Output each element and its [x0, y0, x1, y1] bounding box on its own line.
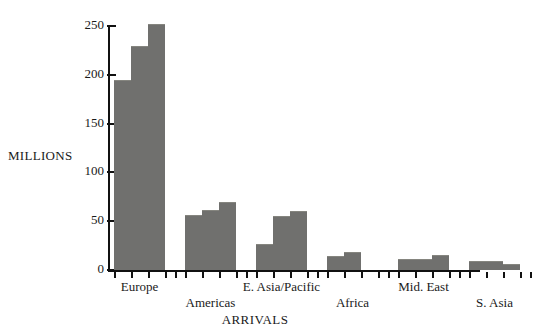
- bar: [219, 202, 236, 270]
- category-label-s-asia: S. Asia: [435, 295, 536, 311]
- x-axis-tick-mark: [246, 272, 248, 278]
- bar: [503, 264, 520, 270]
- y-axis-tick-label: 150: [85, 115, 105, 131]
- bar: [114, 80, 131, 270]
- x-axis-tick-mark: [131, 272, 133, 278]
- x-axis-tick-mark: [256, 272, 258, 278]
- x-axis-label-text: ARRIVALS: [222, 312, 289, 327]
- y-axis-tick-label: 250: [85, 17, 105, 33]
- x-axis-tick-mark: [185, 272, 187, 278]
- category-label-africa: Africa: [293, 295, 413, 311]
- y-axis-tick-label: 100: [85, 163, 105, 179]
- x-axis-tick-mark: [415, 272, 417, 278]
- category-label-mid-east: Mid. East: [364, 279, 484, 295]
- x-axis-tick-mark: [236, 272, 238, 278]
- bar: [185, 215, 202, 270]
- category-label-americas: Americas: [151, 295, 271, 311]
- x-axis-label: ARRIVALS: [0, 312, 490, 328]
- bar: [344, 252, 361, 270]
- x-axis-tick-mark: [449, 272, 451, 278]
- x-axis-tick-mark: [307, 272, 309, 278]
- y-axis-label: MILLIONS: [8, 148, 73, 164]
- bar: [469, 261, 486, 270]
- bar: [148, 24, 165, 270]
- bar: [256, 244, 273, 270]
- x-axis-tick-mark: [520, 272, 522, 278]
- bar: [415, 259, 432, 270]
- y-axis-tick-label: 200: [85, 66, 105, 82]
- category-label-e-asia-pacific: E. Asia/Pacific: [222, 279, 342, 295]
- x-axis-line: [108, 270, 480, 272]
- x-axis-tick-mark: [148, 272, 150, 278]
- x-axis-tick-mark: [273, 272, 275, 278]
- x-axis-tick-mark: [530, 272, 532, 278]
- bar: [432, 255, 449, 270]
- bar: [131, 46, 148, 270]
- x-axis-tick-mark: [361, 272, 363, 278]
- y-axis-tick-label: 50: [91, 212, 104, 228]
- x-axis-tick-mark: [290, 272, 292, 278]
- bar: [202, 210, 219, 270]
- bar: [273, 216, 290, 270]
- x-axis-tick-mark: [486, 272, 488, 278]
- x-axis-tick-mark: [317, 272, 319, 278]
- bar: [327, 256, 344, 270]
- x-axis-tick-mark: [378, 272, 380, 278]
- x-axis-tick-mark: [459, 272, 461, 278]
- plot-area: [110, 26, 480, 270]
- x-axis-tick-mark: [219, 272, 221, 278]
- x-axis-tick-mark: [398, 272, 400, 278]
- x-axis-tick-mark: [344, 272, 346, 278]
- bar: [486, 261, 503, 270]
- x-axis-tick-mark: [469, 272, 471, 278]
- x-axis-tick-mark: [202, 272, 204, 278]
- category-label-europe: Europe: [80, 279, 200, 295]
- x-axis-tick-mark: [432, 272, 434, 278]
- bar: [290, 211, 307, 270]
- x-axis-tick-mark: [114, 272, 116, 278]
- x-axis-tick-mark: [503, 272, 505, 278]
- x-axis-tick-mark: [175, 272, 177, 278]
- x-axis-tick-mark: [165, 272, 167, 278]
- bar: [398, 259, 415, 270]
- x-axis-tick-mark: [388, 272, 390, 278]
- y-axis-tick-label: 0: [98, 261, 105, 277]
- x-axis-tick-mark: [327, 272, 329, 278]
